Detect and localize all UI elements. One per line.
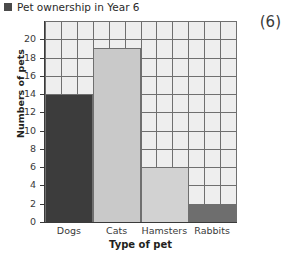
y-tick-mark [40,112,45,113]
gridline-vertical [236,21,237,222]
y-tick-label-2: 2 [10,199,36,209]
y-axis-line [44,21,45,223]
bar-cats [93,48,141,222]
bar-hamsters [141,167,189,222]
x-tick-label-hamsters: Hamsters [141,225,189,236]
y-tick-mark [40,131,45,132]
score-mark: (6) [260,14,281,30]
y-tick-label-0: 0 [10,217,36,227]
y-tick-mark [40,58,45,59]
filled-square-icon [4,3,12,11]
y-tick-mark [40,204,45,205]
gridline-vertical [220,21,221,222]
y-tick-mark [40,94,45,95]
x-axis-title: Type of pet [45,239,236,250]
y-tick-label-8: 8 [10,144,36,154]
gridline-vertical [204,21,205,222]
y-tick-mark [40,39,45,40]
y-tick-label-10: 10 [10,126,36,136]
y-tick-label-16: 16 [10,71,36,81]
y-tick-label-14: 14 [10,89,36,99]
y-tick-mark [40,76,45,77]
y-tick-label-6: 6 [10,162,36,172]
bar-rabbits [188,204,236,222]
y-tick-label-12: 12 [10,107,36,117]
x-tick-label-dogs: Dogs [45,225,93,236]
y-tick-label-18: 18 [10,53,36,63]
y-tick-mark [40,167,45,168]
y-tick-mark [40,222,45,223]
x-tick-label-cats: Cats [93,225,141,236]
x-axis-line [44,222,237,223]
y-tick-mark [40,149,45,150]
chart-figure: Pet ownership in Year 6 (6) Numbers of p… [0,0,286,254]
y-tick-label-4: 4 [10,180,36,190]
y-tick-mark [40,185,45,186]
x-tick-label-rabbits: Rabbits [188,225,236,236]
y-tick-label-20: 20 [10,34,36,44]
chart-title: Pet ownership in Year 6 [4,1,140,13]
chart-title-text: Pet ownership in Year 6 [17,1,140,13]
plot-area [45,21,236,222]
bar-dogs [45,94,93,222]
